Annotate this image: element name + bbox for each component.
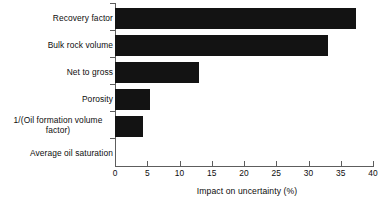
x-axis-tick-label: 15 [201, 168, 223, 178]
tornado-chart: Recovery factor Bulk rock volume Net to … [0, 0, 390, 208]
x-axis-tick [276, 161, 277, 166]
category-label-average-oil-saturation: Average oil saturation [30, 149, 113, 159]
x-axis-tick-label: 35 [330, 168, 352, 178]
bar-bulk-rock-volume [115, 35, 328, 56]
x-axis-tick [115, 161, 116, 166]
bar-porosity [115, 89, 150, 110]
category-label-net-to-gross: Net to gross [67, 68, 113, 78]
bar-oil-formation-volume-factor [115, 116, 143, 137]
x-axis-tick-label: 5 [136, 168, 158, 178]
x-axis-tick [180, 161, 181, 166]
category-label-porosity: Porosity [82, 95, 113, 105]
x-axis-tick [373, 161, 374, 166]
x-axis-tick-label: 20 [233, 168, 255, 178]
x-axis-tick-label: 10 [169, 168, 191, 178]
bar-net-to-gross [115, 62, 199, 83]
bar-recovery-factor [115, 8, 356, 29]
x-axis-title: Impact on uncertainty (%) [0, 186, 390, 196]
x-axis-tick-label: 30 [298, 168, 320, 178]
x-axis-tick [309, 161, 310, 166]
x-axis-tick-label: 0 [104, 168, 126, 178]
x-axis-line [115, 166, 374, 167]
plot-area [115, 3, 373, 166]
x-axis-title-text: Impact on uncertainty (%) [197, 186, 297, 196]
category-label-bulk-rock-volume: Bulk rock volume [48, 41, 113, 51]
x-axis-tick [341, 161, 342, 166]
category-label-recovery-factor: Recovery factor [53, 14, 113, 24]
category-label-oil-formation-volume-factor: 1/(Oil formation volume factor) [3, 116, 113, 135]
x-axis-tick [147, 161, 148, 166]
x-axis-tick [244, 161, 245, 166]
x-axis-tick-label: 25 [265, 168, 287, 178]
x-axis-tick-label: 40 [362, 168, 384, 178]
x-axis-tick [212, 161, 213, 166]
